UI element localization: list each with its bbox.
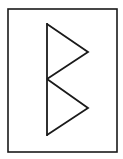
- diagram-canvas: [0, 0, 123, 159]
- rune-diagram: [0, 0, 123, 159]
- frame-rectangle: [8, 9, 117, 152]
- glyph-lower-triangle: [47, 79, 88, 135]
- glyph-upper-triangle: [47, 24, 88, 79]
